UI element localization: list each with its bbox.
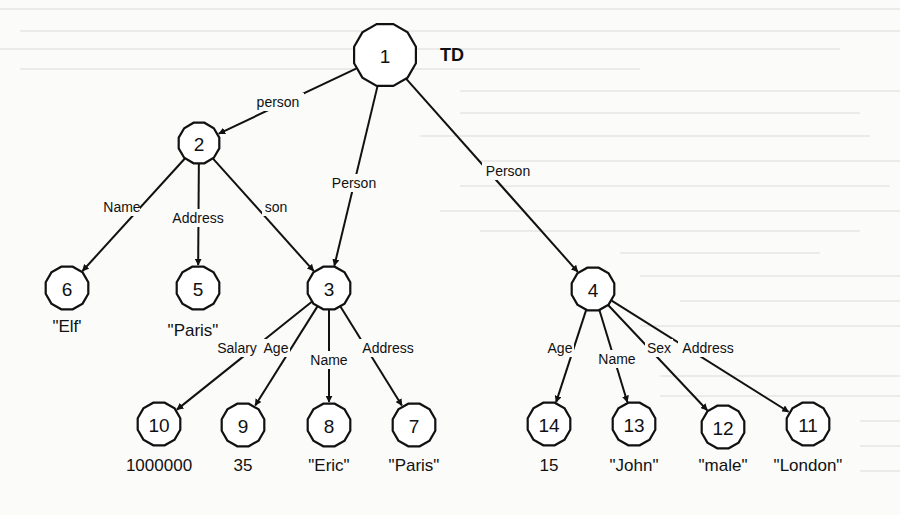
edge-label-text: son <box>265 199 288 215</box>
edge-label-text: Address <box>362 340 413 356</box>
node-value-12: "male" <box>699 456 748 475</box>
node-id: 14 <box>538 415 560 436</box>
node-value-7: "Paris" <box>389 456 440 475</box>
node-id: 8 <box>324 416 335 437</box>
edge-label: Person <box>482 162 534 180</box>
node-value-10: 1000000 <box>126 456 192 475</box>
edge-label-text: Name <box>598 351 636 367</box>
node-13: 13 <box>613 403 656 446</box>
edge-label: Name <box>310 351 348 369</box>
node-id: 11 <box>798 415 818 436</box>
edge-label-text: Name <box>103 199 141 215</box>
edge-label: Age <box>262 339 290 357</box>
edge-label-text: person <box>257 94 300 110</box>
edge-label: son <box>262 198 290 216</box>
node-2: 2 <box>179 123 220 164</box>
edge-label-text: Person <box>332 175 376 191</box>
node-7: 7 <box>393 404 436 447</box>
node-10: 10 <box>138 403 181 446</box>
node-value-13: "John" <box>610 456 659 475</box>
node-value-8: "Eric" <box>308 456 349 475</box>
edge-label: Person <box>328 174 380 192</box>
node-6: 6 <box>46 267 89 310</box>
node-11: 11 <box>787 403 830 446</box>
edge-label: Age <box>546 339 574 357</box>
node-id: 6 <box>62 279 73 300</box>
edge-label-text: Address <box>172 210 223 226</box>
node-value-5: "Paris" <box>168 321 219 340</box>
nodes: 1234567891011121314 <box>46 24 830 448</box>
node-value-6: "Elf' <box>52 317 81 336</box>
edges <box>82 69 788 412</box>
node-value-9: 35 <box>234 456 253 475</box>
tree-diagram: personPersonPersonNameAddresssonSalaryAg… <box>0 0 900 515</box>
node-id: 1 <box>380 46 391 67</box>
edge-label-text: Name <box>310 352 348 368</box>
node-id: 9 <box>238 416 249 437</box>
node-value-11: "London" <box>774 456 843 475</box>
edge-label-text: Age <box>548 340 573 356</box>
node-id: 10 <box>148 415 169 436</box>
edge-label: Address <box>358 339 418 357</box>
edge-label: Address <box>678 339 738 357</box>
node-id: 3 <box>324 279 335 300</box>
node-id: 5 <box>193 279 204 300</box>
node-12: 12 <box>702 406 745 449</box>
scanned-page: personPersonPersonNameAddresssonSalaryAg… <box>0 0 900 515</box>
node-9: 9 <box>222 404 265 447</box>
edge-label-text: Address <box>682 340 733 356</box>
edge-label: Name <box>103 198 141 216</box>
node-8: 8 <box>308 404 351 447</box>
node-id: 4 <box>588 280 599 301</box>
node-1: 1 <box>354 24 416 86</box>
node-id: 12 <box>712 418 733 439</box>
edge-label-text: Salary <box>217 340 257 356</box>
node-5: 5 <box>177 267 220 310</box>
edge-label: Sex <box>645 339 673 357</box>
edge-label-text: Age <box>264 340 289 356</box>
edge-label-text: Person <box>486 163 530 179</box>
node-id: 7 <box>409 416 420 437</box>
edge-label: Name <box>598 350 636 368</box>
node-3: 3 <box>308 267 351 310</box>
node-14: 14 <box>528 403 571 446</box>
node-id: 2 <box>194 134 205 155</box>
node-value-14: 15 <box>540 456 559 475</box>
node-4: 4 <box>572 268 615 311</box>
node-id: 13 <box>623 415 644 436</box>
edge-label-text: Sex <box>647 340 671 356</box>
edge-label: Address <box>168 209 228 227</box>
diagram-title: TD <box>440 45 464 65</box>
edge-label: Salary <box>211 339 263 357</box>
edge-label: person <box>252 93 304 111</box>
